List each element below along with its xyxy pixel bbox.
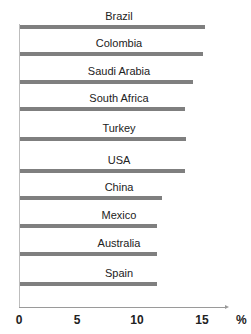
category-label: Australia <box>98 237 141 249</box>
category-label: USA <box>108 154 131 166</box>
bar <box>20 169 185 173</box>
bar <box>20 52 203 56</box>
bar <box>20 107 185 111</box>
x-axis-arrow-icon <box>225 305 229 309</box>
x-axis-line <box>19 307 227 308</box>
category-label: China <box>105 181 134 193</box>
category-label: Spain <box>105 267 133 279</box>
horizontal-bar-chart: BrazilColombiaSaudi ArabiaSouth AfricaTu… <box>0 0 251 334</box>
x-tick-5: 5 <box>74 313 81 327</box>
category-label: Saudi Arabia <box>88 65 150 77</box>
x-axis-unit-label: % <box>236 313 247 327</box>
category-label: Brazil <box>105 10 133 22</box>
x-tick-10: 10 <box>130 313 143 327</box>
bar <box>20 282 157 286</box>
bar <box>20 224 157 228</box>
category-label: Colombia <box>96 37 142 49</box>
bar <box>20 196 162 200</box>
category-label: South Africa <box>89 92 148 104</box>
x-tick-15: 15 <box>195 313 208 327</box>
y-axis-line <box>19 24 20 308</box>
category-label: Turkey <box>102 122 135 134</box>
bar <box>20 252 157 256</box>
category-label: Mexico <box>102 209 137 221</box>
x-tick-0: 0 <box>16 313 23 327</box>
bar <box>20 80 193 84</box>
bar <box>20 25 205 29</box>
bar <box>20 137 186 141</box>
